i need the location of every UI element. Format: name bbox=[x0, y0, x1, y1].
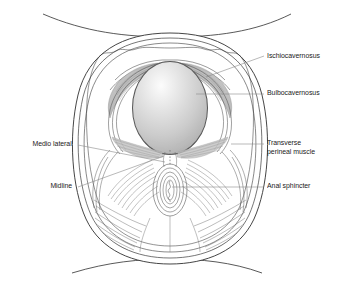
label-midline: Midline bbox=[50, 182, 72, 191]
label-ischiocavernosus: Ischiocavernosus bbox=[267, 52, 320, 61]
label-bulbocavernosus: Bulbocavernosus bbox=[267, 89, 320, 98]
label-transverse-perineal-muscle: Transverse perineal muscle bbox=[267, 139, 335, 156]
label-anal-sphincter: Anal sphincter bbox=[267, 182, 310, 191]
perineal-anatomy-figure: Ischiocavernosus Bulbocavernosus Transve… bbox=[0, 0, 341, 286]
label-transverse-line2: perineal muscle bbox=[267, 147, 315, 156]
fetal-head bbox=[133, 62, 208, 155]
label-medio-lateral: Medio lateral bbox=[33, 140, 72, 149]
